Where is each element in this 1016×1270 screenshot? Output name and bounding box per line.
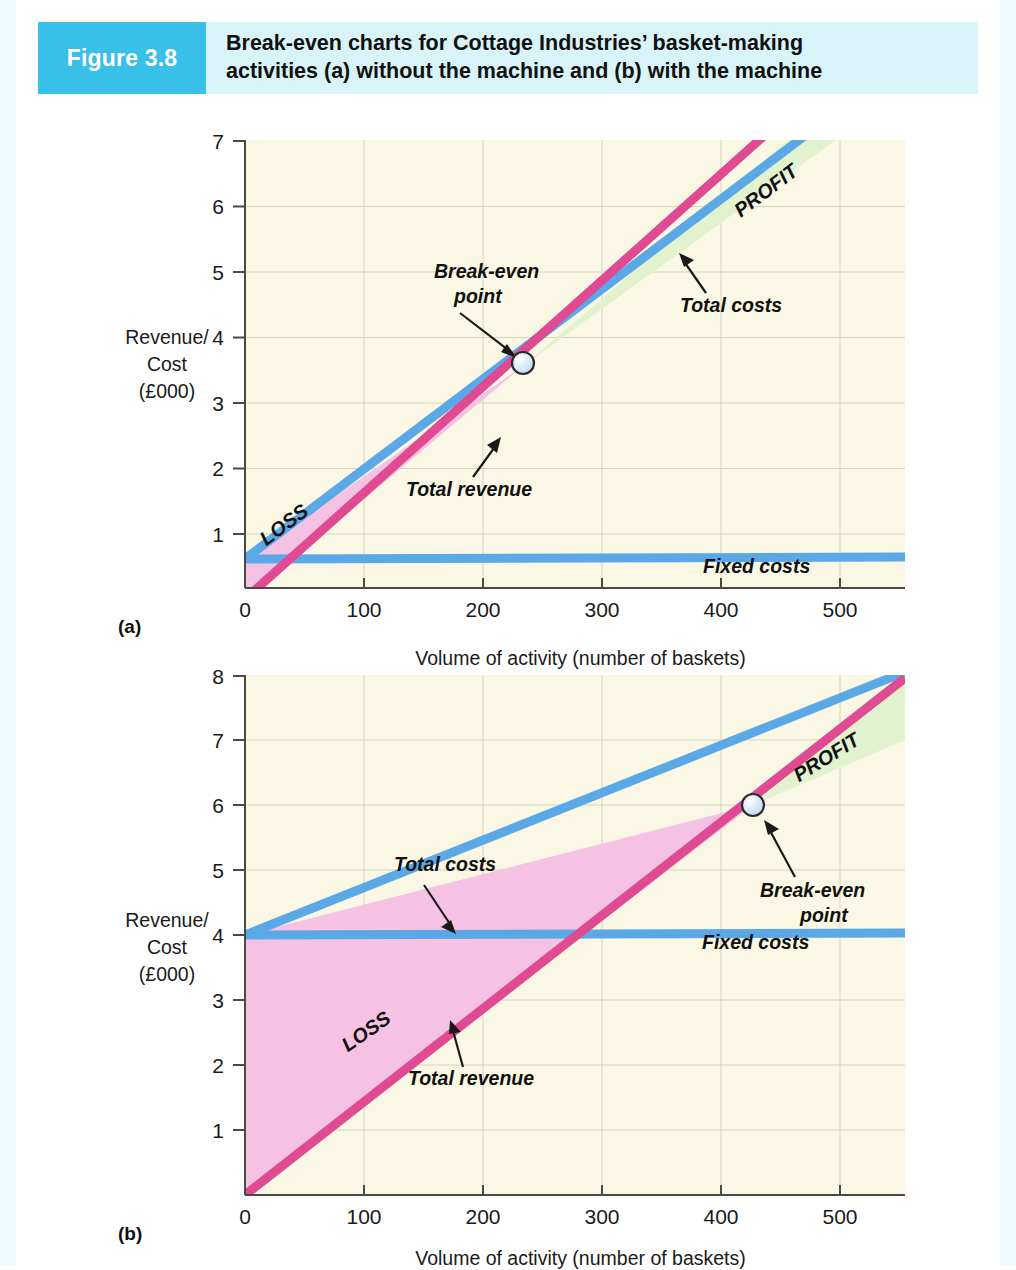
plot-area-background-a xyxy=(245,140,905,588)
y-tick-labels-b: 8 7 6 5 4 3 2 1 xyxy=(212,665,224,1142)
page-body-text-fragment xyxy=(36,1252,986,1266)
y-tick-b-3: 3 xyxy=(212,989,224,1012)
x-tick-b-0: 0 xyxy=(239,1205,251,1228)
total-costs-label-b: Total costs xyxy=(394,853,496,875)
total-revenue-label-a: Total revenue xyxy=(406,478,532,500)
break-even-marker-a xyxy=(512,352,534,374)
y-axis-title-a-line3: (£000) xyxy=(112,378,222,405)
break-even-label-b-line1: Break-even xyxy=(760,879,865,901)
y-ticks-a xyxy=(233,141,245,534)
x-tick-b-200: 200 xyxy=(465,1205,500,1228)
fixed-costs-label-b: Fixed costs xyxy=(702,931,809,953)
y-axis-title-b-line1: Revenue/ xyxy=(112,907,222,934)
break-even-label-b-line2: point xyxy=(799,904,849,926)
x-tick-b-100: 100 xyxy=(346,1205,381,1228)
y-tick-b-7: 7 xyxy=(212,729,224,752)
total-costs-label-a: Total costs xyxy=(680,294,782,316)
y-tick-b-8: 8 xyxy=(212,665,224,688)
x-tick-b-300: 300 xyxy=(584,1205,619,1228)
break-even-label-a-line2: point xyxy=(453,285,503,307)
y-axis-title-a-line2: Cost xyxy=(112,351,222,378)
y-axis-title-b-line2: Cost xyxy=(112,934,222,961)
y-ticks-b xyxy=(233,676,245,1130)
break-even-label-a-line1: Break-even xyxy=(434,260,539,282)
y-tick-a-6: 6 xyxy=(212,195,224,218)
x-tick-b-500: 500 xyxy=(822,1205,857,1228)
y-tick-b-2: 2 xyxy=(212,1054,224,1077)
y-tick-a-2: 2 xyxy=(212,457,224,480)
total-revenue-label-b: Total revenue xyxy=(408,1067,534,1089)
y-tick-b-5: 5 xyxy=(212,859,224,882)
y-axis-title-b: Revenue/ Cost (£000) xyxy=(112,907,222,988)
panel-letter-b: (b) xyxy=(118,1223,142,1245)
y-tick-a-5: 5 xyxy=(212,261,224,284)
y-axis-title-b-line3: (£000) xyxy=(112,961,222,988)
y-tick-b-6: 6 xyxy=(212,794,224,817)
chart-b: 8 7 6 5 4 3 2 1 0 100 200 300 400 500 To… xyxy=(0,535,1016,1266)
y-tick-b-1: 1 xyxy=(212,1119,224,1142)
y-axis-title-a: Revenue/ Cost (£000) xyxy=(112,324,222,405)
chart-b-svg: 8 7 6 5 4 3 2 1 0 100 200 300 400 500 To… xyxy=(0,535,1016,1266)
x-tick-b-400: 400 xyxy=(703,1205,738,1228)
y-axis-title-a-line1: Revenue/ xyxy=(112,324,222,351)
x-tick-labels-b: 0 100 200 300 400 500 xyxy=(239,1205,857,1228)
break-even-marker-b xyxy=(742,794,764,816)
y-tick-a-7: 7 xyxy=(212,130,224,153)
